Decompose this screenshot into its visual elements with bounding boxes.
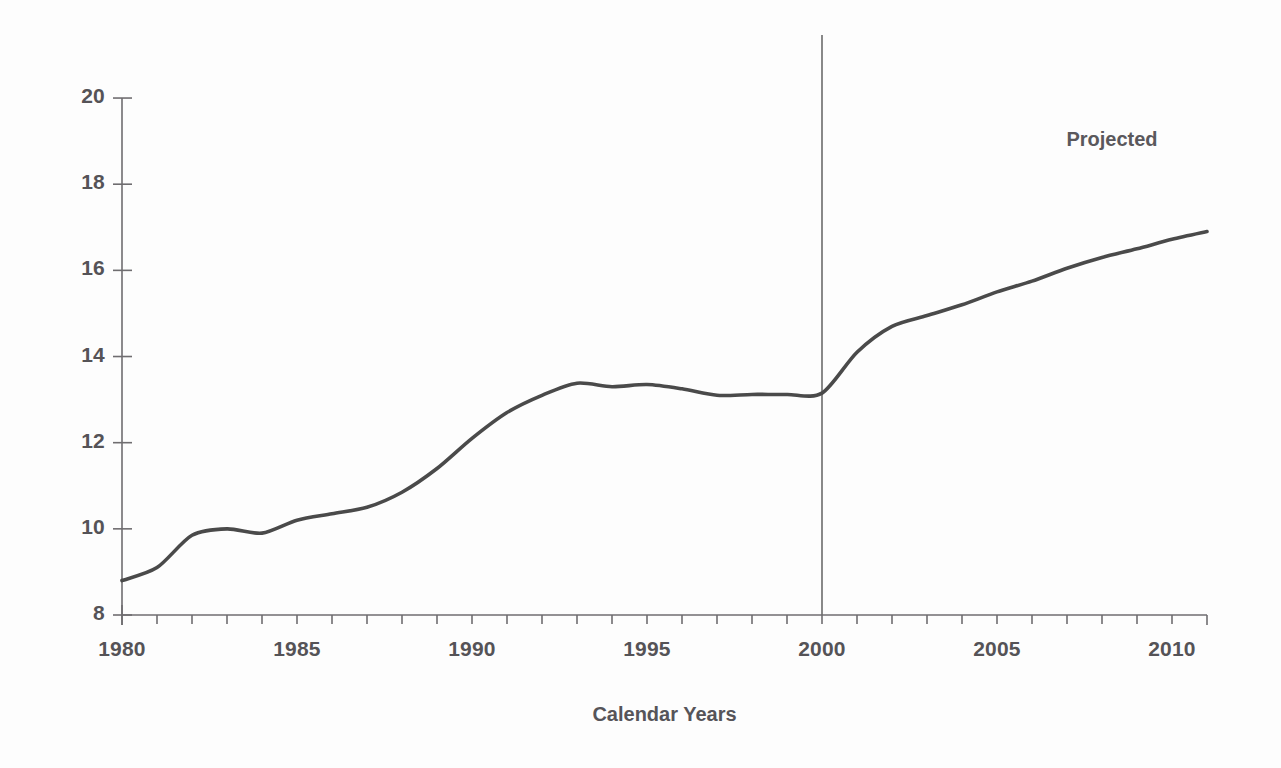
data-line-series-1: [122, 232, 1207, 581]
y-axis-tick-label: 20: [27, 84, 105, 108]
x-axis-tick-label: 1985: [247, 637, 347, 661]
x-axis-tick-label: 1980: [72, 637, 172, 661]
y-axis-tick-label: 10: [27, 515, 105, 539]
y-axis-tick-label: 18: [27, 170, 105, 194]
x-axis-tick-label: 2000: [772, 637, 872, 661]
y-axis-tick-label: 8: [27, 601, 105, 625]
x-axis-tick-label: 2005: [947, 637, 1047, 661]
y-axis-tick-label: 12: [27, 429, 105, 453]
x-axis-tick-label: 1990: [422, 637, 522, 661]
y-axis-tick-label: 16: [27, 256, 105, 280]
x-axis-tick-label: 1995: [597, 637, 697, 661]
chart-figure: 8101214161820 19801985199019952000200520…: [0, 0, 1281, 768]
x-axis-tick-label: 2010: [1122, 637, 1222, 661]
y-axis-tick-label: 14: [27, 343, 105, 367]
axes-layer: [113, 98, 1207, 625]
data-series-layer: [122, 232, 1207, 581]
x-axis-title: Calendar Years: [92, 703, 1237, 726]
projected-label: Projected: [1042, 128, 1182, 151]
